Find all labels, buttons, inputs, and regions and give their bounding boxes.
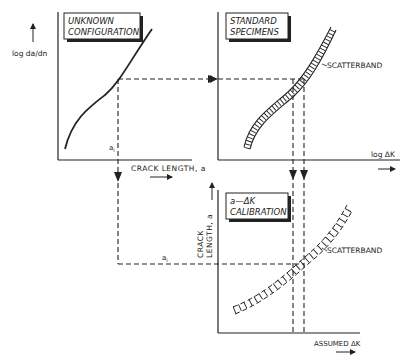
title-line-2: SPECIMENS bbox=[230, 27, 279, 37]
right-arrow-icon bbox=[208, 75, 218, 83]
diagram-canvas: log da/dn UNKNOWN CONFIGURATION ai CRACK… bbox=[0, 0, 401, 359]
panel-standard-specimens: STANDARD SPECIMENS SCATTERBAND log ΔK bbox=[218, 12, 400, 169]
crack-growth-calibration-diagram: log da/dn UNKNOWN CONFIGURATION ai CRACK… bbox=[0, 0, 401, 359]
down-arrow-icon bbox=[300, 170, 308, 180]
x-axis-label: CRACK LENGTH, a bbox=[131, 164, 206, 173]
scatterband-label: SCATTERBAND bbox=[327, 246, 382, 255]
y-axis-label: log da/dn bbox=[12, 49, 47, 58]
down-arrow-icon bbox=[289, 170, 297, 180]
title-line-2: CONFIGURATION bbox=[68, 27, 140, 37]
title-line-1: UNKNOWN bbox=[68, 16, 115, 26]
title-line-1: STANDARD bbox=[230, 16, 277, 26]
title-line-2: CALIBRATION bbox=[230, 207, 287, 217]
scatterband-label: SCATTERBAND bbox=[327, 61, 382, 70]
point-label-ai: ai bbox=[162, 254, 168, 263]
panel-unknown-configuration: log da/dn UNKNOWN CONFIGURATION ai CRACK… bbox=[12, 12, 206, 177]
panel-calibration: a—ΔK CALIBRATION CRACK LENGTH, a SCATTER… bbox=[162, 183, 382, 352]
y-axis-label: CRACK LENGTH, a bbox=[196, 214, 214, 258]
svg-text:CRACK: CRACK bbox=[196, 230, 205, 258]
title-line-1: a—ΔK bbox=[230, 196, 257, 206]
point-label-ai: ai bbox=[109, 144, 115, 153]
x-axis-label: ASSUMED ΔK bbox=[314, 340, 361, 348]
scatterband-rungs bbox=[234, 208, 349, 310]
scatterband-lower-edge bbox=[244, 27, 331, 147]
down-arrow-icon bbox=[114, 172, 122, 182]
growth-rate-curve bbox=[65, 29, 152, 149]
x-axis-label: log ΔK bbox=[371, 150, 396, 159]
svg-text:LENGTH, a: LENGTH, a bbox=[205, 214, 214, 258]
